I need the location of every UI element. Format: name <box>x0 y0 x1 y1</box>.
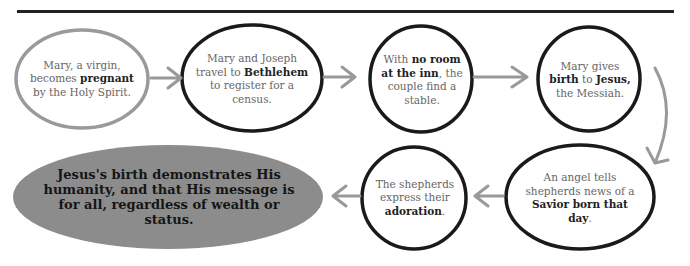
arrow-2-3 <box>324 67 355 87</box>
step-1-text: Mary, a virgin, becomes pregnant by the … <box>26 59 138 100</box>
conclusion-text: Jesus's birth demonstrates His humanity,… <box>40 167 298 227</box>
step-5: An angel tells shepherds news of a Savio… <box>520 160 640 236</box>
step-4-text: Mary gives birth to Jesus, the Messiah. <box>548 60 632 101</box>
step-3-text: With no room at the inn, the couple find… <box>378 53 466 107</box>
step-5-text: An angel tells shepherds news of a Savio… <box>520 171 640 225</box>
arrow-4-5 <box>647 68 668 163</box>
step-3: With no room at the inn, the couple find… <box>378 40 466 120</box>
arrow-6-7 <box>333 186 360 206</box>
arrow-1-2 <box>151 68 181 88</box>
arrow-5-6 <box>475 186 503 206</box>
conclusion: Jesus's birth demonstrates His humanity,… <box>40 148 298 246</box>
arrow-3-4 <box>474 67 527 87</box>
step-2: Mary and Joseph travel to Bethlehem to r… <box>192 34 312 124</box>
step-2-text: Mary and Joseph travel to Bethlehem to r… <box>192 52 312 106</box>
step-6: The shepherds express their adoration. <box>374 160 456 236</box>
step-6-text: The shepherds express their adoration. <box>374 178 456 219</box>
step-4: Mary gives birth to Jesus, the Messiah. <box>548 40 632 120</box>
step-1: Mary, a virgin, becomes pregnant by the … <box>26 38 138 120</box>
